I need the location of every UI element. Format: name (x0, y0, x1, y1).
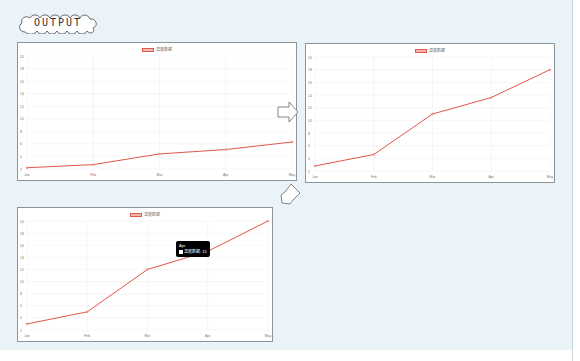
x-tick-label: Mar (144, 334, 151, 338)
x-tick-label: May (547, 175, 554, 179)
y-tick-label: 12 (20, 105, 24, 109)
y-tick-label: 20 (20, 55, 24, 59)
data-point[interactable] (92, 164, 94, 166)
y-tick-label: 8 (308, 132, 310, 136)
chart-plot[interactable]: 2468101214161820JanFebMarAprMay (18, 208, 272, 341)
y-tick-label: 6 (308, 144, 310, 148)
data-point[interactable] (267, 220, 269, 222)
x-tick-label: May (289, 173, 296, 177)
y-tick-label: 8 (20, 130, 22, 134)
data-point[interactable] (26, 167, 28, 169)
y-tick-label: 4 (308, 157, 310, 161)
data-point[interactable] (26, 323, 28, 325)
y-tick-label: 4 (20, 316, 22, 320)
chart-plot[interactable]: 2468101214161820JanFebMarAprMay (18, 43, 296, 180)
data-point[interactable] (314, 165, 316, 167)
legend-label: 温度数据 (429, 48, 445, 53)
x-tick-label: Apr (223, 173, 229, 177)
y-tick-label: 18 (20, 232, 24, 236)
y-tick-label: 10 (20, 280, 24, 284)
data-point[interactable] (147, 269, 149, 271)
data-point[interactable] (159, 153, 161, 155)
y-tick-label: 2 (308, 170, 310, 174)
x-tick-label: Jan (24, 334, 30, 338)
legend-swatch (130, 213, 142, 217)
tooltip-label: 温度数据 (184, 249, 200, 254)
y-tick-label: 20 (308, 56, 312, 60)
tooltip-swatch (179, 250, 183, 254)
x-tick-label: Jan (312, 175, 318, 179)
output-label: OUTPUT (17, 17, 99, 28)
y-tick-label: 16 (308, 81, 312, 85)
chart-plot[interactable]: 2468101214161820JanFebMarAprMay (306, 44, 554, 182)
line-chart-2: 2468101214161820JanFebMarAprMay 温度数据 (305, 43, 555, 183)
data-point[interactable] (432, 113, 434, 115)
data-point[interactable] (549, 69, 551, 71)
y-tick-label: 10 (20, 117, 24, 121)
y-tick-label: 2 (20, 168, 22, 172)
legend-label: 温度数据 (156, 47, 172, 52)
x-tick-label: Jan (24, 173, 30, 177)
chart-legend[interactable]: 温度数据 (18, 47, 296, 52)
x-tick-label: Feb (90, 173, 96, 177)
legend-label: 温度数据 (144, 212, 160, 217)
tooltip-value: 15 (202, 249, 206, 254)
chart-tooltip: Apr 温度数据: 15 (176, 241, 210, 257)
data-point[interactable] (225, 149, 227, 151)
y-tick-label: 18 (308, 68, 312, 72)
y-tick-label: 10 (308, 119, 312, 123)
x-tick-label: Feb (84, 334, 90, 338)
data-point[interactable] (373, 154, 375, 156)
arrow-down-left-icon (279, 182, 303, 206)
y-tick-label: 12 (20, 268, 24, 272)
y-tick-label: 12 (308, 106, 312, 110)
data-point[interactable] (291, 141, 293, 143)
x-tick-label: Mar (429, 175, 436, 179)
line-chart-3: 2468101214161820JanFebMarAprMay 温度数据 Apr… (17, 207, 273, 342)
y-tick-label: 2 (20, 329, 22, 333)
x-tick-label: Apr (489, 175, 495, 179)
x-tick-label: May (265, 334, 272, 338)
y-tick-label: 14 (20, 256, 24, 260)
y-tick-label: 6 (20, 142, 22, 146)
y-tick-label: 14 (20, 92, 24, 96)
x-tick-label: Feb (371, 175, 377, 179)
line-chart-1: 2468101214161820JanFebMarAprMay 温度数据 (17, 42, 297, 181)
chart-legend[interactable]: 温度数据 (18, 212, 272, 217)
y-tick-label: 16 (20, 80, 24, 84)
output-cloud-label: OUTPUT (17, 14, 99, 34)
data-point[interactable] (86, 311, 88, 313)
y-tick-label: 20 (20, 220, 24, 224)
chart-legend[interactable]: 温度数据 (306, 48, 554, 53)
data-point[interactable] (490, 97, 492, 99)
y-tick-label: 16 (20, 244, 24, 248)
y-tick-label: 8 (20, 292, 22, 296)
y-tick-label: 14 (308, 94, 312, 98)
y-tick-label: 18 (20, 67, 24, 71)
x-tick-label: Mar (156, 173, 163, 177)
y-tick-label: 4 (20, 155, 22, 159)
legend-swatch (142, 48, 154, 52)
right-divider (572, 0, 573, 361)
arrow-right-icon (277, 101, 299, 123)
legend-swatch (415, 49, 427, 53)
x-tick-label: Apr (205, 334, 211, 338)
y-tick-label: 6 (20, 304, 22, 308)
